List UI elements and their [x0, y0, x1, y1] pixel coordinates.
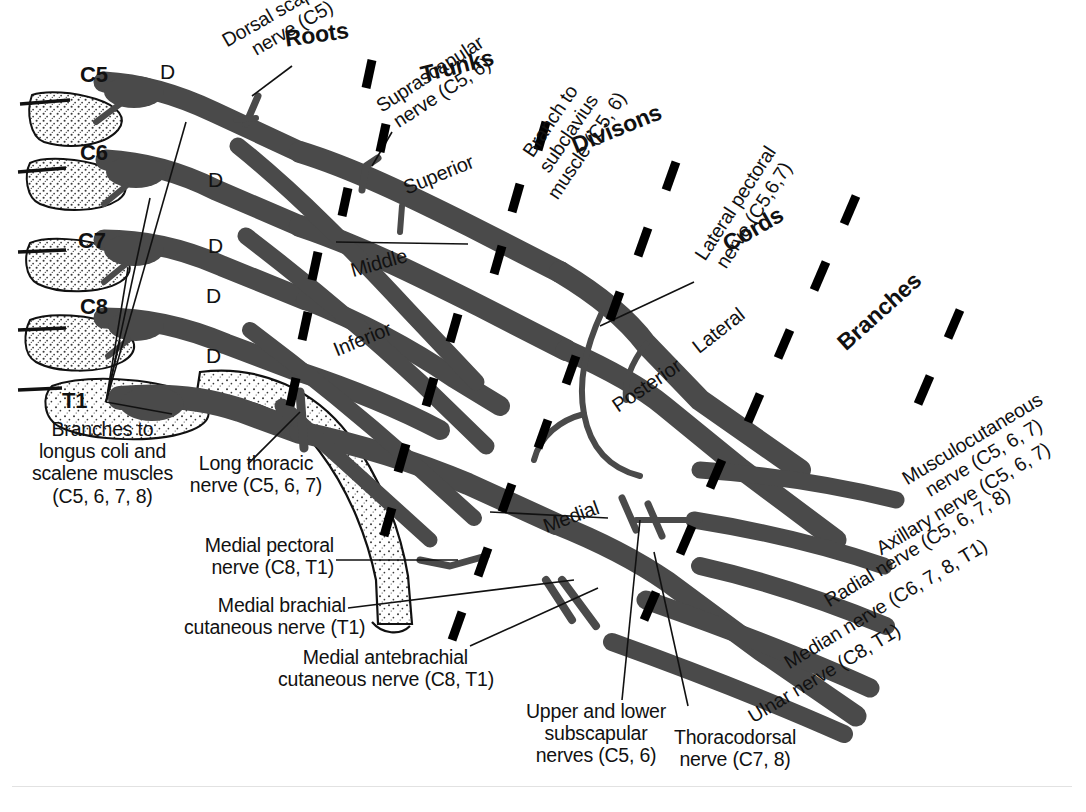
callout-subscapular-nerves: Upper and lower subscapular nerves (C5, …	[512, 700, 680, 767]
long-thoracic-nerve	[300, 392, 304, 448]
axillary-nerve	[694, 520, 884, 566]
subscapular-nerve-upper	[622, 498, 636, 530]
root-label-c8: C8	[80, 294, 108, 319]
ganglion-label-c6: D	[208, 168, 223, 192]
musculocutaneous-nerve	[700, 470, 896, 500]
ganglion-label-t1: D	[206, 344, 221, 368]
root-label-c6: C6	[80, 140, 108, 165]
callout-medial-pectoral-nerve: Medial pectoral nerve (C8, T1)	[176, 534, 334, 578]
divider-branches-edge	[918, 310, 960, 404]
branch-to-subclavius	[400, 206, 402, 232]
callout-medial-antebrachial-cutaneous-nerve: Medial antebrachial cutaneous nerve (C8,…	[278, 646, 468, 690]
callout-thoracodorsal-nerve: Thoracodorsal nerve (C7, 8)	[660, 726, 810, 770]
root-label-t1: T1	[62, 388, 87, 413]
ganglion-label-c5: D	[160, 60, 175, 84]
root-label-c5: C5	[80, 62, 108, 87]
root-label-c7: C7	[78, 228, 106, 253]
ganglion-t1	[120, 387, 184, 421]
callout-branches-longus-colli-scalene: Branches to longus coli and scalene musc…	[20, 418, 185, 507]
medial-pectoral-nerve	[420, 556, 486, 566]
ganglion-label-c7: D	[208, 234, 223, 258]
callout-long-thoracic-nerve: Long thoracic nerve (C5, 6, 7)	[176, 452, 336, 496]
ganglion-label-c8: D	[206, 284, 221, 308]
ganglion-c6	[106, 156, 166, 188]
bottom-divider	[12, 786, 1072, 787]
brachial-plexus-diagram: Roots Trunks Divisons Cords Branches C5 …	[0, 0, 1086, 812]
ganglion-c7	[104, 234, 164, 266]
callout-medial-brachial-cutaneous-nerve: Medial brachial cutaneous nerve (T1)	[184, 594, 346, 638]
lateral-cord	[566, 350, 836, 540]
leader-dorsal-scapular	[252, 66, 292, 96]
ganglion-c5	[104, 76, 164, 108]
leader-medial-antebrachial	[470, 588, 598, 646]
